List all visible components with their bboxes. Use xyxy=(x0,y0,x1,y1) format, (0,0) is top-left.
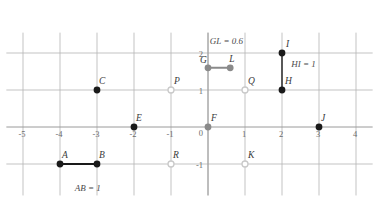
ab-measure: AB = 1 xyxy=(74,183,101,193)
point-label-l: L xyxy=(228,54,234,64)
coordinate-grid-figure: -5-4-3-2-11234-1012ABCEPFGLQKRHIJAB = 1G… xyxy=(0,0,383,214)
point-k xyxy=(242,161,248,167)
point-label-a: A xyxy=(61,150,68,160)
point-a xyxy=(57,161,64,168)
x-tick-label: -2 xyxy=(129,129,136,139)
axes xyxy=(6,33,372,196)
point-i xyxy=(279,50,286,57)
point-g xyxy=(205,64,212,71)
point-label-c: C xyxy=(99,76,106,86)
point-label-k: K xyxy=(247,150,255,160)
point-q xyxy=(242,87,248,93)
x-tick-label: -3 xyxy=(92,129,99,139)
point-label-r: R xyxy=(172,150,179,160)
point-h xyxy=(279,87,286,94)
point-b xyxy=(94,161,101,168)
point-label-q: Q xyxy=(248,76,255,86)
grid-lines xyxy=(6,33,372,196)
point-label-p: P xyxy=(173,76,180,86)
point-r xyxy=(168,161,174,167)
point-label-f: F xyxy=(210,113,217,123)
point-label-g: G xyxy=(200,55,207,65)
point-p xyxy=(168,87,174,93)
gl-measure: GL = 0.6 xyxy=(210,36,244,46)
point-c xyxy=(94,87,101,94)
x-tick-label: -4 xyxy=(55,129,63,139)
x-tick-label: 4 xyxy=(353,129,358,139)
point-label-e: E xyxy=(135,113,142,123)
annotations: AB = 1GL = 0.6HI = 1 xyxy=(74,36,316,193)
x-axis-tick-labels: -5-4-3-2-11234 xyxy=(18,129,357,139)
y-tick-label: -1 xyxy=(196,160,203,170)
point-label-i: I xyxy=(285,39,290,49)
x-tick-label: 3 xyxy=(316,129,320,139)
point-j xyxy=(316,124,323,131)
point-label-j: J xyxy=(321,113,326,123)
x-tick-label: 1 xyxy=(242,129,246,139)
point-label-b: B xyxy=(99,150,105,160)
x-tick-label: 2 xyxy=(279,129,283,139)
y-tick-label: 0 xyxy=(199,128,203,138)
y-axis-tick-labels: -1012 xyxy=(196,49,203,170)
x-tick-label: -5 xyxy=(18,129,25,139)
x-tick-label: -1 xyxy=(166,129,173,139)
point-e xyxy=(131,124,138,131)
hi-measure: HI = 1 xyxy=(290,59,316,69)
point-f xyxy=(205,124,212,131)
point-l xyxy=(227,64,234,71)
y-tick-label: 1 xyxy=(199,86,203,96)
point-label-h: H xyxy=(284,76,293,86)
plot-canvas: -5-4-3-2-11234-1012ABCEPFGLQKRHIJAB = 1G… xyxy=(0,0,383,214)
